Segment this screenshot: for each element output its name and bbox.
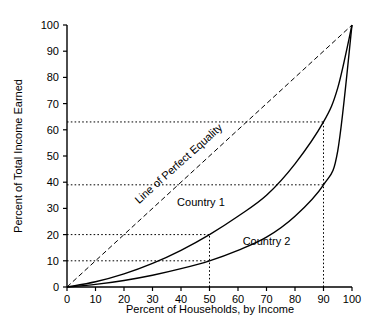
x-tick-label-100: 100 — [343, 293, 361, 305]
y-tick-label-30: 30 — [47, 202, 59, 214]
y-tick-label-20: 20 — [47, 229, 59, 241]
y-tick-label-50: 50 — [47, 150, 59, 162]
annotation-country-2: Country 2 — [243, 235, 291, 247]
y-tick-label-40: 40 — [47, 176, 59, 188]
y-tick-label-0: 0 — [53, 281, 59, 293]
y-tick-labels: 0102030405060708090100 — [41, 19, 59, 293]
y-tick-label-90: 90 — [47, 45, 59, 57]
x-tick-label-10: 10 — [89, 293, 101, 305]
x-axis-title: Percent of Households, by Income — [126, 303, 294, 315]
annotation-line-of-perfect-equality: Line of Perfect Equality — [132, 121, 224, 206]
y-tick-label-60: 60 — [47, 124, 59, 136]
lorenz-curve-chart: 0102030405060708090100 01020304050607080… — [0, 0, 375, 336]
y-tick-label-80: 80 — [47, 71, 59, 83]
annotation-country-1: Country 1 — [177, 196, 225, 208]
y-axis-title: Percent of Total Income Earned — [12, 79, 24, 233]
y-tick-label-70: 70 — [47, 98, 59, 110]
y-tick-label-100: 100 — [41, 19, 59, 31]
y-tick-label-10: 10 — [47, 255, 59, 267]
chart-canvas: 0102030405060708090100 01020304050607080… — [0, 0, 375, 336]
x-tick-label-0: 0 — [64, 293, 70, 305]
x-tick-label-90: 90 — [317, 293, 329, 305]
